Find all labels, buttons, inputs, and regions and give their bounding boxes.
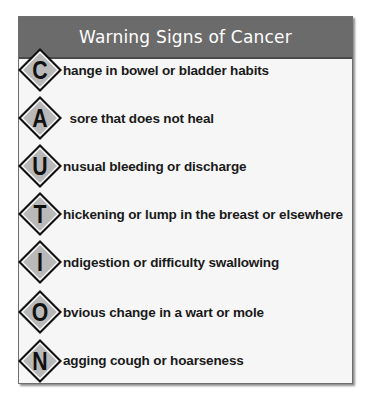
list-item-o: O bvious change in a wart or mole [0,289,373,337]
item-text: nusual bleeding or discharge [63,159,246,175]
diamond-icon: N [17,338,63,384]
acronym-letter: N [20,338,59,384]
diamond-icon: I [17,239,63,285]
acronym-letter: I [20,239,59,285]
list-item-i: I ndigestion or difficulty swallowing [0,239,373,287]
list-item-t: T hickening or lump in the breast or els… [0,191,373,239]
card-title: Warning Signs of Cancer [79,27,292,47]
diamond-icon: T [17,191,63,237]
item-text: bvious change in a wart or mole [63,305,264,321]
acronym-letter: U [20,143,59,189]
acronym-letter: A [20,95,59,141]
list-item-u: U nusual bleeding or discharge [0,143,373,191]
list-item-c: C hange in bowel or bladder habits [0,47,373,95]
diamond-icon: A [17,95,63,141]
diamond-icon: C [17,47,63,93]
list-item-n: N agging cough or hoarseness [0,338,373,386]
acronym-letter: T [20,191,59,237]
item-text: ndigestion or difficulty swallowing [63,255,279,271]
item-text: sore that does not heal [66,111,214,127]
acronym-letter: O [20,289,59,335]
diamond-icon: U [17,143,63,189]
list-item-a: A sore that does not heal [0,95,373,143]
item-text: agging cough or hoarseness [63,353,244,369]
item-text: hange in bowel or bladder habits [63,63,269,79]
item-text: hickening or lump in the breast or elsew… [63,207,343,223]
diamond-icon: O [17,289,63,335]
acronym-letter: C [20,47,59,93]
